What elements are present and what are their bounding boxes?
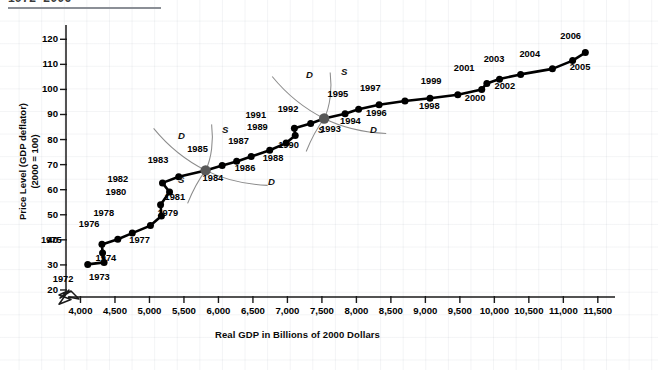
y-axis-tick-label: 60 (24, 184, 58, 195)
y-axis-tick-label: 70 (24, 159, 58, 170)
data-point-label-2005: 2005 (570, 62, 591, 72)
data-point-label-1979: 1979 (157, 208, 178, 218)
supply-curve-label: S (341, 66, 347, 77)
data-point-label-1995: 1995 (328, 89, 349, 99)
data-point-label-1988: 1988 (263, 153, 284, 163)
data-point-label-1996: 1996 (366, 108, 387, 118)
demand-curve-label: D (178, 130, 185, 141)
data-point-label-2004: 2004 (519, 49, 540, 59)
data-point-label-1999: 1999 (421, 76, 442, 86)
data-point-label-1987: 1987 (228, 136, 249, 146)
data-point-label-1973: 1973 (89, 272, 110, 282)
data-point-label-1976: 1976 (79, 219, 100, 229)
data-point-label-1997: 1997 (360, 83, 381, 93)
supply-curve-label: S (222, 124, 228, 135)
data-point-label-2003: 2003 (484, 54, 505, 64)
data-point-label-1972: 1972 (53, 274, 74, 284)
y-axis-tick-label: 80 (24, 134, 58, 145)
data-point-label-1983: 1983 (148, 155, 169, 165)
data-point-label-1998: 1998 (419, 101, 440, 111)
data-point-label-1977: 1977 (129, 235, 150, 245)
demand-curve-label: D (268, 176, 275, 187)
y-axis-tick-label: 20 (24, 284, 58, 295)
chart-axes (59, 25, 615, 304)
y-axis-tick-label: 100 (24, 83, 58, 94)
y-axis-tick-label: 90 (24, 108, 58, 119)
data-point-label-1991: 1991 (245, 110, 266, 120)
data-point-label-2006: 2006 (560, 31, 581, 41)
data-point-label-1992: 1992 (278, 104, 299, 114)
y-axis-tick-label: 110 (24, 58, 58, 69)
demand-curve-label: D (370, 124, 377, 135)
demand-curve-label: D (306, 69, 313, 80)
x-axis-tick-label: 11,500 (573, 305, 623, 316)
data-point-label-2000: 2000 (465, 93, 486, 103)
data-point-label-1990: 1990 (278, 140, 299, 150)
data-point-label-1978: 1978 (93, 208, 114, 218)
y-axis-tick-label: 120 (24, 33, 58, 44)
y-axis-tick-label: 50 (24, 209, 58, 220)
supply-curve-label: S (318, 124, 324, 135)
data-point-label-1984: 1984 (203, 173, 224, 183)
data-point-label-1986: 1986 (235, 163, 256, 173)
data-point-label-1982: 1982 (108, 174, 129, 184)
data-point-label-1981: 1981 (165, 192, 186, 202)
data-point-label-1994: 1994 (340, 116, 361, 126)
data-point-label-1980: 1980 (106, 187, 127, 197)
data-point-label-1975: 1975 (41, 235, 62, 245)
data-point-label-1989: 1989 (247, 122, 268, 132)
data-point-label-2001: 2001 (454, 63, 475, 73)
data-point-label-2002: 2002 (495, 81, 516, 91)
supply-curve-label: S (178, 174, 184, 185)
x-axis-title: Real GDP in Billions of 2000 Dollars (215, 329, 380, 340)
data-point-label-1974: 1974 (96, 253, 117, 263)
data-point-label-1985: 1985 (187, 144, 208, 154)
y-axis-tick-label: 30 (24, 259, 58, 270)
